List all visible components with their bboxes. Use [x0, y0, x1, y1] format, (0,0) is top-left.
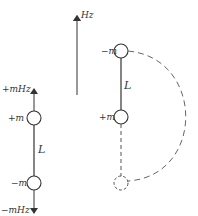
right-top-charge-label: −m: [101, 46, 117, 56]
negative-pole: [27, 176, 41, 190]
left-length-label: L: [38, 144, 45, 155]
dipole-diagram: Hz +mHz +m L −m −mHz −m L +m: [0, 0, 198, 216]
right-bottom-charge-label: +m: [99, 112, 115, 122]
left-bottom-charge-label: −m: [11, 178, 27, 188]
right-dipole: [114, 44, 186, 190]
diagram-canvas: [0, 0, 198, 216]
right-length-label: L: [124, 80, 131, 91]
positive-pole: [27, 111, 41, 125]
positive-pole: [114, 110, 128, 124]
left-top-force-label: +mHz: [2, 84, 31, 94]
ghost-pole: [114, 176, 128, 190]
rotation-arc: [128, 51, 186, 181]
left-bottom-force-label: −mHz: [1, 205, 30, 215]
field-label: Hz: [81, 10, 94, 20]
left-top-charge-label: +m: [8, 113, 24, 123]
